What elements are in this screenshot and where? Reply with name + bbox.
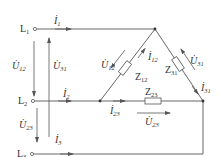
- label-U12-line: U̇12: [12, 60, 26, 72]
- line-L1: [33, 27, 155, 30]
- terminal-L1: [33, 27, 36, 30]
- label-I31: İ31: [200, 82, 211, 94]
- label-U23-line: U̇23: [19, 119, 33, 131]
- label-Z23: Z23: [145, 86, 158, 98]
- label-U31-phase: U̇31: [190, 55, 204, 67]
- label-L3: L3: [17, 148, 26, 157]
- label-U31-line: U̇31: [53, 60, 67, 72]
- delta-circuit-diagram: L1 L2 L3 İ1 İ2 İ3 U̇12 U̇31 U̇23 U̇12 İ1…: [0, 0, 220, 157]
- label-I1: İ1: [53, 15, 61, 27]
- label-L1: L1: [20, 23, 29, 35]
- label-L2: L2: [18, 95, 27, 107]
- terminal-L2: [31, 99, 34, 102]
- label-I23: İ23: [109, 105, 121, 117]
- label-U12-phase: U̇12: [101, 59, 115, 71]
- impedance-Z23: [145, 98, 161, 104]
- impedance-Z12: [118, 61, 131, 76]
- label-U23-phase: U̇23: [145, 116, 159, 128]
- label-I3: İ3: [54, 134, 62, 146]
- label-I12: İ12: [147, 51, 159, 63]
- terminal-L3: [30, 152, 33, 155]
- label-Z12: Z12: [135, 71, 148, 83]
- label-I2: İ2: [62, 88, 70, 100]
